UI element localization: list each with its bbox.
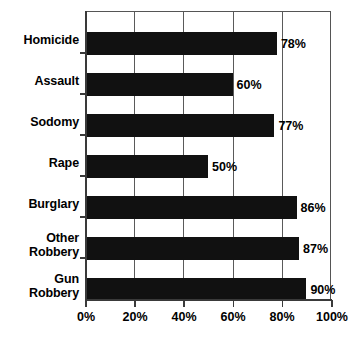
y-axis-tick	[80, 134, 86, 136]
category-label-line2: Robbery	[0, 245, 79, 259]
bar-row: 87%	[85, 237, 331, 260]
category-label-line1: Burglary	[0, 197, 79, 211]
category-label-line1: Homicide	[0, 33, 79, 47]
category-label-line1: Sodomy	[0, 115, 79, 129]
bar-row: 90%	[85, 278, 331, 301]
bar-value-assault: 60%	[233, 78, 262, 92]
category-label-line1: Rape	[0, 156, 79, 170]
category-label-homicide: Homicide	[0, 33, 79, 47]
bar-rape	[85, 155, 208, 178]
bar-value-burglary: 86%	[297, 201, 326, 215]
category-label-line1: Assault	[0, 74, 79, 88]
bar-value-rape: 50%	[208, 160, 237, 174]
category-label-other-robbery: Other Robbery	[0, 231, 79, 259]
y-axis-tick	[80, 93, 86, 95]
bar-other-robbery	[85, 237, 299, 260]
x-axis-line	[85, 299, 332, 301]
y-axis-tick	[80, 216, 86, 218]
y-axis-tick	[80, 52, 86, 54]
bar-row: 50%	[85, 155, 331, 178]
bar-value-gun-robbery: 90%	[306, 283, 335, 297]
category-axis-labels: Homicide Assault Sodomy Rape Burglary Ot…	[0, 11, 79, 300]
bar-homicide	[85, 32, 277, 55]
category-label-sodomy: Sodomy	[0, 115, 79, 129]
x-axis-label-100: 100%	[302, 310, 356, 324]
category-label-line1: Other	[0, 231, 79, 245]
bar-chart: Homicide Assault Sodomy Rape Burglary Ot…	[0, 0, 356, 339]
bar-row: 77%	[85, 114, 331, 137]
category-label-gun-robbery: Gun Robbery	[0, 272, 79, 300]
x-axis-tick-40	[183, 300, 185, 307]
bar-value-other-robbery: 87%	[299, 242, 328, 256]
bars-layer: 78% 60% 77% 50% 86% 87% 90%	[85, 11, 331, 300]
bar-assault	[85, 73, 233, 96]
bar-burglary	[85, 196, 297, 219]
x-axis-tick-20	[134, 300, 136, 307]
y-axis-tick	[80, 257, 86, 259]
bar-row: 78%	[85, 32, 331, 55]
category-label-assault: Assault	[0, 74, 79, 88]
bar-row: 86%	[85, 196, 331, 219]
category-label-line2: Robbery	[0, 286, 79, 300]
category-label-rape: Rape	[0, 156, 79, 170]
x-axis-tick-100	[331, 300, 333, 307]
bar-row: 60%	[85, 73, 331, 96]
x-axis-tick-60	[233, 300, 235, 307]
bar-gun-robbery	[85, 278, 306, 301]
y-axis-tick	[80, 175, 86, 177]
bar-value-sodomy: 77%	[274, 119, 303, 133]
bar-sodomy	[85, 114, 274, 137]
x-axis-tick-0	[85, 300, 87, 307]
bar-value-homicide: 78%	[277, 37, 306, 51]
x-axis-tick-80	[282, 300, 284, 307]
category-label-line1: Gun	[0, 272, 79, 286]
category-label-burglary: Burglary	[0, 197, 79, 211]
